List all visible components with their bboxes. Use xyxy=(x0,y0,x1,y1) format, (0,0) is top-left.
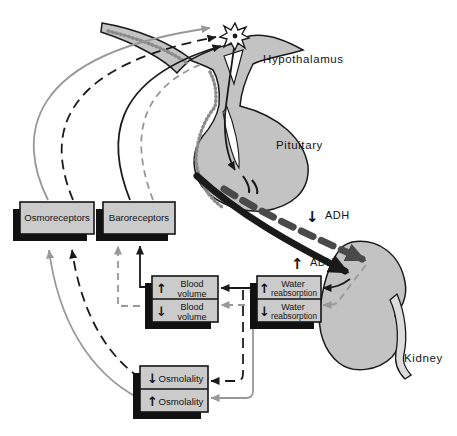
neuron-nucleus xyxy=(233,34,238,39)
adh-decrease-text: ADH xyxy=(325,209,350,221)
osmoreceptors-label: Osmoreceptors xyxy=(24,212,90,223)
adh-feedback-diagram: Osmoreceptors Baroreceptors ↑ Blood volu… xyxy=(0,0,457,436)
baroreceptors-label: Baroreceptors xyxy=(109,212,169,223)
hypothalamus-label: Hypothalamus xyxy=(263,53,344,65)
osmolality-up-arrow-icon: ↑ xyxy=(147,394,158,409)
arrow-osmolality-down-to-osmoreceptors xyxy=(72,250,140,378)
blood-volume-up-label-2: volume xyxy=(177,289,206,299)
blood-volume-up-arrow-icon: ↑ xyxy=(156,281,167,296)
baroreceptors-box: Baroreceptors xyxy=(96,202,175,241)
blood-volume-down-arrow-icon: ↓ xyxy=(156,304,167,319)
water-reabsorption-down-label-2: reabsorption xyxy=(271,311,318,321)
pituitary-label: Pituitary xyxy=(276,139,323,151)
osmolality-boxes: ↓ Osmolality ↑ Osmolality xyxy=(133,366,208,419)
osmoreceptors-box: Osmoreceptors xyxy=(13,202,94,241)
osmolality-down-label: Osmolality xyxy=(159,373,204,384)
adh-increase-text: ADH xyxy=(310,256,335,268)
blood-volume-down-label-1: Blood xyxy=(180,302,203,312)
water-reabsorption-up-label-2: reabsorption xyxy=(271,288,318,298)
water-reabsorption-down-arrow-icon: ↓ xyxy=(259,304,270,319)
adh-increase-arrow-icon: ↑ xyxy=(291,255,304,273)
afferent-baroreceptor-2 xyxy=(141,63,204,200)
osmolality-up-label: Osmolality xyxy=(159,396,204,407)
hypothalamus-left-wing xyxy=(101,23,191,73)
osmolality-down-arrow-icon: ↓ xyxy=(147,371,158,386)
arrow-blood-up-to-baroreceptors xyxy=(140,246,152,287)
blood-volume-up-label-1: Blood xyxy=(180,279,203,289)
diagram-canvas: Osmoreceptors Baroreceptors ↑ Blood volu… xyxy=(0,0,457,436)
water-reabsorption-up-arrow-icon: ↑ xyxy=(259,281,270,296)
kidney-label: Kidney xyxy=(404,352,443,364)
adh-decrease-arrow-icon: ↓ xyxy=(306,208,319,226)
adh-decrease-label: ↓ ADH xyxy=(306,208,350,226)
blood-volume-down-label-2: volume xyxy=(177,312,206,322)
water-reabsorption-boxes: ↑ Water reabsorption ↓ Water reabsorptio… xyxy=(250,276,321,329)
blood-volume-boxes: ↑ Blood volume ↓ Blood volume xyxy=(145,276,218,329)
